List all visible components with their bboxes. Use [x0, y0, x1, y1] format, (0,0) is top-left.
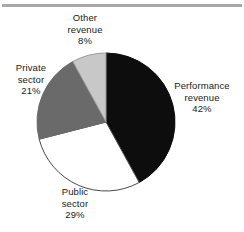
- slice-label-public-sector-line2: sector: [38, 198, 112, 210]
- slice-label-private-sector-line1: Private: [0, 62, 64, 74]
- slice-label-performance-revenue-line1: Performance: [156, 80, 244, 92]
- slice-value-private-sector: 21%: [0, 85, 64, 97]
- slice-label-performance-revenue: Performance revenue 42%: [156, 80, 244, 115]
- slice-label-other-revenue-line2: revenue: [42, 24, 128, 36]
- clipped-footer-text: [4, 223, 204, 231]
- slice-label-other-revenue: Other revenue 8%: [42, 12, 128, 47]
- slice-label-other-revenue-line1: Other: [42, 12, 128, 24]
- slice-label-public-sector: Public sector 29%: [38, 186, 112, 221]
- slice-label-private-sector-line2: sector: [0, 74, 64, 86]
- slice-value-performance-revenue: 42%: [156, 103, 244, 115]
- pie-chart-figure: Other revenue 8% Private sector 21% Perf…: [0, 0, 244, 232]
- slice-label-private-sector: Private sector 21%: [0, 62, 64, 97]
- slice-label-public-sector-line1: Public: [38, 186, 112, 198]
- slice-label-performance-revenue-line2: revenue: [156, 92, 244, 104]
- slice-value-other-revenue: 8%: [42, 35, 128, 47]
- slice-value-public-sector: 29%: [38, 209, 112, 221]
